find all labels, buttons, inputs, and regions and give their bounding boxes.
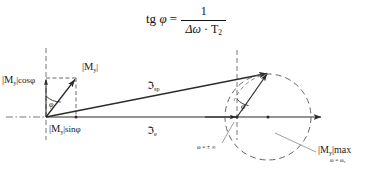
label-my-cos-phi: |My|cosφ: [2, 75, 35, 86]
label-my: |My|: [82, 62, 98, 73]
my-sin-suffix: |sinφ: [63, 124, 81, 134]
label-omega-zero: ω = ω₀: [330, 158, 346, 163]
label-j-e: ℑe: [147, 126, 157, 136]
my-prefix: |M: [82, 61, 93, 72]
figure-canvas: tg φ = 1Δω · T2: [0, 0, 373, 174]
label-phi-left: φ: [49, 101, 53, 109]
j-e-glyph: ℑ: [147, 125, 154, 136]
leader-line-my-max: [275, 133, 316, 152]
axis-tick-dot-center: [267, 116, 270, 119]
label-omega-infinity: ω = ± ∞: [197, 145, 216, 150]
my-subscript: y: [93, 67, 96, 73]
label-my-max: |My|max: [318, 145, 351, 155]
my-cos-suffix: |cosφ: [16, 75, 35, 85]
axis-tick-dot-1: [75, 116, 78, 119]
my-max-subscript: y: [329, 149, 332, 156]
my-max-suffix: |max: [332, 144, 351, 155]
my-suffix: |: [96, 62, 98, 72]
my-cos-prefix: |M: [2, 74, 13, 85]
j-e-subscript: e: [154, 130, 157, 137]
label-phi-right: φ: [241, 103, 245, 111]
my-cos-subscript: y: [13, 80, 16, 86]
label-j-sp: ℑsp: [147, 81, 160, 91]
label-my-sin-phi: |My|sinφ: [49, 124, 81, 135]
j-sp-glyph: ℑ: [147, 80, 154, 91]
my-max-prefix: |M: [318, 144, 329, 155]
my-sin-prefix: |M: [49, 123, 60, 134]
leader-line-omega-infinity: [222, 122, 234, 143]
j-sp-subscript: sp: [154, 85, 160, 92]
my-vector-arrow: [46, 80, 75, 118]
my-sin-subscript: y: [60, 129, 63, 135]
